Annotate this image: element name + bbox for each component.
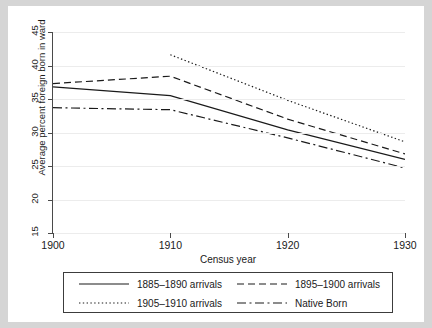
gridline xyxy=(53,166,405,167)
x-tick xyxy=(288,233,289,238)
gridline xyxy=(53,233,405,234)
legend-item-0[interactable]: 1885–1890 arrivals xyxy=(78,275,222,293)
x-tick xyxy=(53,233,54,238)
x-axis-title: Census year xyxy=(52,254,404,265)
y-tick-label: 45 xyxy=(29,20,40,42)
x-tick xyxy=(170,233,171,238)
x-tick-label: 1910 xyxy=(148,239,192,251)
legend-label-2: 1905–1910 arrivals xyxy=(137,298,222,309)
x-tick xyxy=(405,233,406,238)
gridline xyxy=(53,32,405,33)
legend-label-1: 1895–1900 arrivals xyxy=(295,279,380,290)
y-tick-label: 25 xyxy=(29,154,40,176)
y-tick-label: 35 xyxy=(29,87,40,109)
gridline xyxy=(53,66,405,67)
gridline xyxy=(53,200,405,201)
y-tick xyxy=(48,166,53,167)
series-line-1 xyxy=(53,76,405,154)
legend-label-3: Native Born xyxy=(295,298,347,309)
x-tick-label: 1920 xyxy=(266,239,310,251)
legend-key-dotted-icon xyxy=(78,297,130,309)
legend-key-dashdot-icon xyxy=(236,297,288,309)
legend-label-0: 1885–1890 arrivals xyxy=(137,279,222,290)
y-tick xyxy=(48,133,53,134)
y-tick-label: 40 xyxy=(29,53,40,75)
y-tick xyxy=(48,200,53,201)
y-tick xyxy=(48,66,53,67)
x-tick-label: 1900 xyxy=(31,239,75,251)
gridline xyxy=(53,133,405,134)
legend-item-3[interactable]: Native Born xyxy=(236,294,347,312)
plot-area: 15202530354045 1900191019201930 xyxy=(52,32,405,234)
legend-item-2[interactable]: 1905–1910 arrivals xyxy=(78,294,222,312)
legend-key-solid-icon xyxy=(78,278,130,290)
y-tick-label: 20 xyxy=(29,187,40,209)
legend-key-dashed-icon xyxy=(236,278,288,290)
gridline xyxy=(53,99,405,100)
chart-legend: 1885–1890 arrivals 1895–1900 arrivals 19… xyxy=(63,272,393,313)
legend-item-1[interactable]: 1895–1900 arrivals xyxy=(236,275,380,293)
legend-row: 1905–1910 arrivals Native Born xyxy=(64,294,392,312)
y-tick xyxy=(48,32,53,33)
legend-row: 1885–1890 arrivals 1895–1900 arrivals xyxy=(64,275,392,293)
x-tick-label: 1930 xyxy=(383,239,427,251)
chart-figure: Average percent foreign born in ward 152… xyxy=(8,6,424,322)
y-tick-label: 30 xyxy=(29,120,40,142)
y-tick xyxy=(48,99,53,100)
